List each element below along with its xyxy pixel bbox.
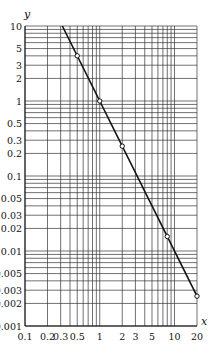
y-axis-label: y: [23, 8, 31, 21]
y-tick-label: 0.1: [7, 171, 22, 182]
y-tick-label: 0.005: [0, 268, 22, 279]
y-tick-label: 0.3: [7, 135, 22, 146]
y-tick-label: 2: [16, 73, 22, 84]
x-axis-label: x: [201, 315, 208, 328]
x-tick-label: 20: [191, 331, 203, 342]
data-point-marker: [165, 234, 169, 238]
x-tick-label: 0.5: [70, 331, 85, 342]
x-tick-label: 5: [149, 331, 155, 342]
grid-lines: [25, 26, 197, 326]
x-tick-label: 0.3: [53, 331, 68, 342]
y-tick-label: 0.03: [1, 210, 22, 221]
y-tick-label: 5: [16, 43, 22, 54]
x-axis-tick-labels: 0.10.20.30.512351020: [17, 331, 203, 342]
y-tick-label: 3: [16, 60, 22, 71]
data-point-marker: [195, 294, 199, 298]
y-tick-label: 10: [10, 21, 22, 32]
y-axis-tick-labels: 1053210.50.30.20.10.050.030.020.010.0050…: [0, 21, 22, 332]
y-tick-label: 1: [16, 96, 22, 107]
y-tick-label: 0.5: [7, 118, 22, 129]
data-point-marker: [120, 144, 124, 148]
y-tick-label: 0.001: [0, 321, 22, 332]
y-tick-label: 0.02: [1, 223, 22, 234]
x-tick-label: 1: [97, 331, 103, 342]
x-tick-label: 2: [119, 331, 125, 342]
x-tick-label: 3: [132, 331, 138, 342]
y-tick-label: 0.002: [0, 298, 22, 309]
y-tick-label: 0.003: [0, 285, 22, 296]
log-log-chart: 1053210.50.30.20.10.050.030.020.010.0050…: [0, 0, 210, 354]
series-line: [62, 26, 197, 296]
y-tick-label: 0.05: [1, 193, 22, 204]
data-point-marker: [75, 54, 79, 58]
y-tick-label: 0.2: [7, 148, 22, 159]
x-tick-label: 10: [168, 331, 180, 342]
data-point-marker: [98, 99, 102, 103]
x-tick-label: 0.1: [17, 331, 32, 342]
y-tick-label: 0.01: [1, 246, 22, 257]
